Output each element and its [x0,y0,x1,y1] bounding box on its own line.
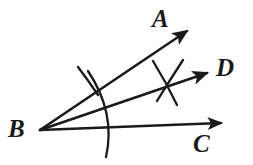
intersection-arc-lower [157,60,183,101]
point-label-A: A [152,6,169,31]
ray-BD-bisector [40,73,207,130]
intersection-arc-upper [153,61,177,105]
point-label-D: D [216,55,234,80]
geometry-figure: A D C B [0,0,253,165]
figure-canvas [0,0,253,165]
ray-BC [40,123,221,130]
point-label-B: B [8,116,25,141]
point-label-C: C [193,131,210,156]
